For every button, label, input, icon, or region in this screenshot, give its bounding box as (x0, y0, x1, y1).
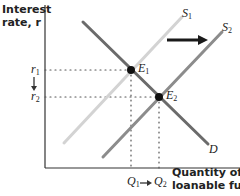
e1-label: E1 (138, 61, 149, 76)
x-axis-title-line2: loanable funds (172, 179, 240, 192)
q1-label: Q1 (127, 174, 140, 189)
y-axis-title-line1: Interest (2, 3, 40, 16)
x-axis-title: Quantity of loanable funds (172, 166, 240, 192)
shift-arrow-head-icon (198, 35, 208, 45)
r1-label: r1 (31, 62, 40, 77)
x-axis-title-line1: Quantity of (172, 166, 240, 179)
y-axis-title-line2: rate, r (2, 16, 40, 29)
equilibrium-point-e1 (127, 66, 135, 74)
r2-label: r2 (31, 89, 40, 104)
quantity-rise-arrow-head-icon (147, 180, 152, 186)
equilibrium-point-e2 (155, 93, 163, 101)
supply-s2-label: S2 (222, 20, 232, 35)
y-axis-title: Interest rate, r (2, 3, 40, 29)
demand-label: D (209, 142, 218, 157)
e2-label: E2 (166, 88, 177, 103)
supply-curve-s1 (64, 17, 182, 143)
q2-label: Q2 (154, 174, 167, 189)
supply-s1-label: S1 (182, 6, 192, 21)
